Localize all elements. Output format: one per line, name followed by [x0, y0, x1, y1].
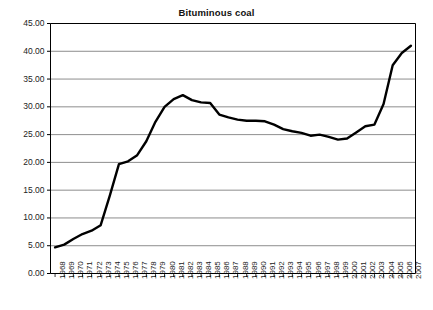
- y-axis-ticks: [47, 24, 51, 274]
- plot-area: [0, 0, 433, 310]
- data-series-line: [55, 46, 411, 248]
- bituminous-coal-line-chart: Bituminous coal 0.005.0010.0015.0020.002…: [0, 0, 433, 310]
- x-axis-ticks: [55, 274, 411, 278]
- axis-frame: [51, 24, 416, 274]
